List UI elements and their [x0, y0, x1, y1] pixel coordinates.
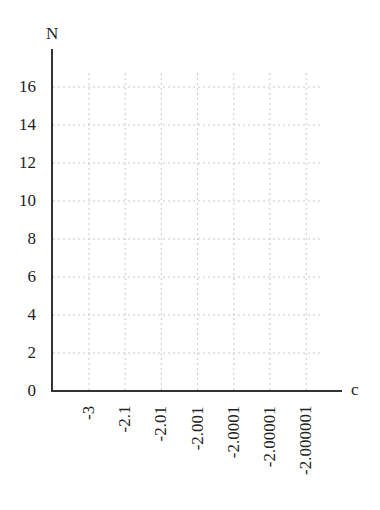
- chart: N c 0246810121416 -3-2.1-2.01-2.001-2.00…: [0, 0, 380, 510]
- y-tick-label: 16: [6, 78, 36, 95]
- gridlines: [53, 73, 322, 390]
- y-tick-label: 0: [6, 382, 36, 399]
- x-axis-label: c: [351, 381, 359, 398]
- x-tick-label: -2.00001: [261, 406, 278, 475]
- x-tick-label: -2.001: [189, 406, 206, 458]
- x-tick-label: -2.0001: [225, 406, 242, 466]
- y-tick-label: 8: [6, 230, 36, 247]
- x-tick-label: -2.01: [152, 406, 169, 449]
- y-axis-label: N: [46, 25, 58, 42]
- x-tick-label: -2.000001: [297, 406, 314, 483]
- x-tick-label: -3: [80, 406, 97, 423]
- y-tick-label: 2: [6, 344, 36, 361]
- y-tick-label: 10: [6, 192, 36, 209]
- y-tick-label: 6: [6, 268, 36, 285]
- y-tick-label: 12: [6, 154, 36, 171]
- x-tick-label: -2.1: [116, 406, 133, 440]
- y-tick-label: 4: [6, 306, 36, 323]
- y-tick-label: 14: [6, 116, 36, 133]
